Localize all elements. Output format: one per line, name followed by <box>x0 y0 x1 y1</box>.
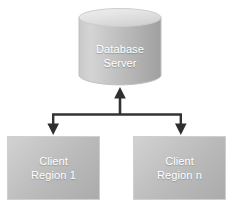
database-server-node[interactable]: Database Server <box>78 8 162 87</box>
client-region-n-label-line1: Client <box>165 154 194 168</box>
client-region-1-node[interactable]: Client Region 1 <box>7 136 100 200</box>
connector-down-to-client-region-n <box>175 114 187 135</box>
client-region-n-label-line2: Region n <box>157 168 202 182</box>
diagram-canvas: Database Server Client Region 1 Client R… <box>0 0 232 209</box>
client-region-1-label-line1: Client <box>39 154 68 168</box>
connector-up-to-database <box>114 87 126 115</box>
client-region-n-node[interactable]: Client Region n <box>133 136 226 200</box>
connector-down-to-client-region-1 <box>47 114 59 135</box>
client-region-1-label-line2: Region 1 <box>31 168 76 182</box>
database-server-label-line1: Database <box>96 43 144 57</box>
database-server-label-line2: Server <box>104 57 137 71</box>
database-server-label: Database Server <box>78 34 162 79</box>
